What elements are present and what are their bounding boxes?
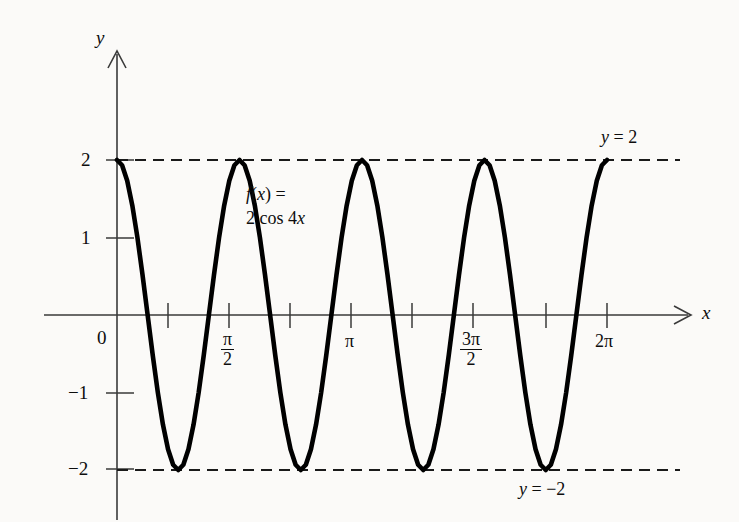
asymptote-upper-value: = 2 (609, 127, 637, 147)
asymptote-lower-variable: y (519, 479, 527, 499)
plot-svg (0, 0, 739, 522)
y-tick-label-neg2: −2 (68, 459, 88, 478)
function-annotation-line1: f(x) = (246, 182, 305, 206)
function-annotation-line2: 2 cos 4x (246, 206, 305, 230)
fraction-numerator: π (221, 330, 234, 350)
x-axis (44, 306, 691, 324)
x-tick-label-3pi-over-2: 3π 2 (460, 330, 482, 369)
figure-canvas: y x 2 1 −1 −2 0 π 2 π 3π 2 2π f(x) = 2 c… (0, 0, 739, 522)
asymptote-label-lower: y = −2 (519, 480, 565, 498)
y-tick-label-1: 1 (81, 228, 91, 247)
x-axis-label: x (702, 303, 710, 322)
origin-label: 0 (97, 328, 107, 347)
fraction-denominator: 2 (460, 350, 482, 369)
fraction-3pi-over-2: 3π 2 (460, 330, 482, 369)
fraction-pi-over-2: π 2 (221, 330, 234, 369)
function-expression: 2 cos 4 (246, 208, 297, 228)
asymptote-upper-variable: y (601, 127, 609, 147)
asymptote-lower-value: = −2 (527, 479, 565, 499)
y-axis (108, 51, 126, 520)
x-tick-label-2pi: 2π (595, 332, 613, 350)
x-tick-label-pi: π (345, 332, 354, 350)
function-annotation: f(x) = 2 cos 4x (246, 182, 305, 231)
fraction-denominator: 2 (221, 350, 234, 369)
function-expression-variable: x (297, 208, 305, 228)
fraction-numerator: 3π (460, 330, 482, 350)
y-tick-label-2: 2 (81, 150, 91, 169)
equals-sign: = (271, 184, 286, 204)
asymptote-label-upper: y = 2 (601, 128, 637, 146)
y-axis-label: y (96, 28, 104, 47)
x-tick-label-pi-over-2: π 2 (221, 330, 234, 369)
function-variable: x (257, 184, 265, 204)
y-tick-label-neg1: −1 (68, 383, 88, 402)
